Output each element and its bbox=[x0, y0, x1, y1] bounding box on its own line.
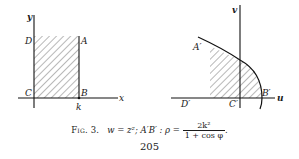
label-a: A bbox=[80, 36, 88, 46]
label-a-prime: A′ bbox=[192, 42, 202, 52]
left-panel: y x D A C B k bbox=[18, 12, 124, 112]
point-k bbox=[78, 97, 81, 100]
label-c-prime: C′ bbox=[229, 99, 238, 109]
caption-end: . bbox=[225, 125, 228, 135]
label-c: C bbox=[25, 88, 32, 98]
figure-caption: Fig. 3. w = z²; A′B′ : ρ = 2k² 1 + cos φ… bbox=[0, 121, 299, 140]
right-panel: v u A′ B′ D′ C′ bbox=[171, 5, 284, 109]
label-b: B bbox=[80, 88, 88, 98]
label-d: D bbox=[24, 36, 32, 46]
mapping-formula: w = z²; bbox=[107, 125, 138, 135]
label-k: k bbox=[76, 102, 81, 112]
v-axis-label: v bbox=[232, 5, 238, 15]
label-d-prime: D′ bbox=[180, 99, 190, 109]
label-b-prime: B′ bbox=[261, 88, 271, 98]
fraction-numerator: 2k² bbox=[183, 121, 225, 131]
page-number: 205 bbox=[0, 141, 299, 152]
hatched-rectangle bbox=[34, 36, 79, 98]
x-axis-label: x bbox=[119, 93, 124, 103]
u-axis-label: u bbox=[277, 93, 284, 103]
hatched-parabolic-region bbox=[205, 30, 265, 100]
curve-label: A′B′ : ρ = bbox=[141, 125, 180, 135]
figure-number: Fig. 3. bbox=[71, 125, 99, 135]
fraction-denominator: 1 + cos φ bbox=[183, 131, 225, 140]
polar-fraction: 2k² 1 + cos φ bbox=[183, 121, 225, 140]
y-axis-label: y bbox=[26, 12, 33, 22]
